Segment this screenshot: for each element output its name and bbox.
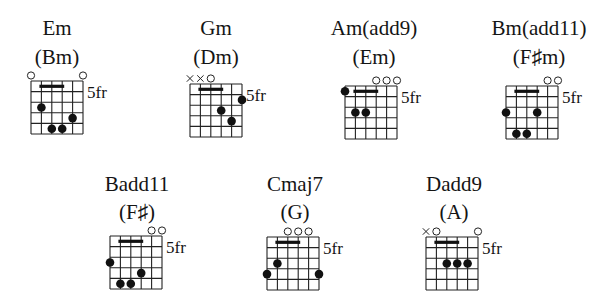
chord-diagram: 5fr <box>426 237 427 238</box>
finger-dot <box>533 108 542 117</box>
open-string-marker <box>305 228 312 235</box>
finger-dot <box>106 258 115 267</box>
chord-alt-name: (Bm) <box>35 47 79 68</box>
finger-dot <box>463 259 472 268</box>
finger-dot <box>512 129 521 138</box>
muted-string-marker <box>423 228 429 234</box>
chord-diagram: 5fr <box>110 236 111 237</box>
finger-dot <box>137 269 146 278</box>
open-string-marker <box>207 75 214 82</box>
fret-position-label: 5fr <box>166 238 186 257</box>
fret-position-label: 5fr <box>562 88 582 107</box>
finger-dot <box>263 270 272 279</box>
finger-dot <box>127 279 136 288</box>
chord-name: Cmaj7 <box>267 174 323 195</box>
finger-dot <box>362 108 371 117</box>
finger-dot <box>58 124 67 133</box>
open-string-marker <box>393 77 400 84</box>
finger-dot <box>443 259 452 268</box>
open-string-marker <box>544 77 551 84</box>
open-string-marker <box>554 77 561 84</box>
chord-alt-name: (A) <box>439 202 468 223</box>
finger-dot <box>502 108 511 117</box>
fret-position-label: 5fr <box>323 239 343 258</box>
finger-dot <box>453 259 462 268</box>
fret-position-label: 5fr <box>482 239 502 258</box>
chord-diagram: 5fr <box>345 86 346 87</box>
finger-dot <box>48 124 57 133</box>
open-string-marker <box>295 228 302 235</box>
finger-dot <box>341 87 350 96</box>
open-string-marker <box>27 72 34 79</box>
fret-position-label: 5fr <box>246 86 266 105</box>
chord-name: Gm <box>200 18 232 39</box>
open-string-marker <box>474 228 481 235</box>
open-string-marker <box>373 77 380 84</box>
chord-alt-name: (F♯m) <box>513 47 566 68</box>
chord-alt-name: (Em) <box>352 47 395 68</box>
finger-dot <box>315 270 324 279</box>
muted-string-marker <box>197 75 203 81</box>
chord-alt-name: (G) <box>280 202 309 223</box>
fret-position-label: 5fr <box>401 88 421 107</box>
open-string-marker <box>433 228 440 235</box>
open-string-marker <box>284 228 291 235</box>
finger-dot <box>273 259 282 268</box>
finger-dot <box>116 279 125 288</box>
muted-string-marker <box>187 75 193 81</box>
chord-name: Dadd9 <box>426 174 482 195</box>
chord-name: Bm(add11) <box>492 18 587 39</box>
finger-dot <box>351 108 360 117</box>
chord-diagram: 5fr <box>506 86 507 87</box>
finger-dot <box>217 106 226 115</box>
fret-position-label: 5fr <box>87 83 107 102</box>
chord-diagram: 5fr <box>190 84 191 85</box>
finger-dot <box>227 117 236 126</box>
chord-diagram: 5fr <box>31 81 32 82</box>
open-string-marker <box>148 227 155 234</box>
open-string-marker <box>383 77 390 84</box>
finger-dot <box>238 96 247 105</box>
chord-name: Am(add9) <box>331 18 417 39</box>
finger-dot <box>523 129 532 138</box>
finger-dot <box>37 103 46 112</box>
chord-alt-name: (F♯) <box>119 202 155 223</box>
chord-name: Badd11 <box>105 174 170 195</box>
open-string-marker <box>158 227 165 234</box>
finger-dot <box>68 114 77 123</box>
chord-name: Em <box>42 18 71 39</box>
chord-alt-name: (Dm) <box>193 47 239 68</box>
open-string-marker <box>79 72 86 79</box>
chord-diagram: 5fr <box>267 237 268 238</box>
